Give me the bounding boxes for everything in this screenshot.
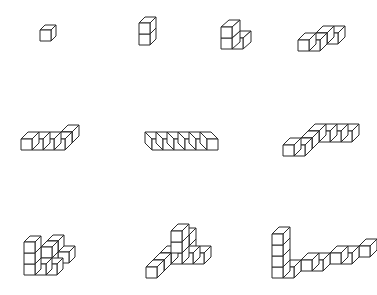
cube — [146, 260, 164, 278]
cube-figure-nine-cube-tripod — [146, 224, 211, 278]
cube-figure-five-cube-row-with-back — [21, 125, 79, 150]
cube — [359, 239, 377, 257]
cube — [40, 25, 56, 41]
cube-figure-six-cube-bar — [145, 132, 218, 150]
cube-figure-seven-cube-step-z — [283, 124, 359, 156]
cube-figures-svg — [0, 0, 377, 295]
diagram-canvas — [0, 0, 377, 295]
cube-figure-three-cube-l — [221, 20, 251, 49]
cube-figure-two-cube-tower — [139, 17, 156, 45]
cube-figure-four-cube-s — [298, 26, 345, 51]
cube-figure-single-cube — [40, 25, 56, 41]
cube-figure-ten-cube-l-staircase — [272, 227, 377, 278]
cube-figure-eight-cube-staircase — [24, 235, 75, 275]
